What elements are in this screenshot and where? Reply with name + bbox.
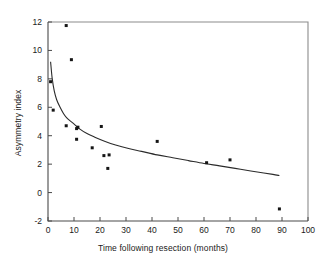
svg-text:70: 70 (225, 225, 235, 235)
svg-text:50: 50 (173, 225, 183, 235)
data-point (205, 161, 208, 164)
svg-text:90: 90 (277, 225, 287, 235)
svg-text:10: 10 (33, 45, 43, 55)
svg-text:-2: -2 (34, 216, 42, 226)
scatter-plot: 0102030405060708090100 -2024681012 (0, 0, 326, 264)
svg-text:4: 4 (37, 131, 42, 141)
data-point (108, 153, 111, 156)
data-point (65, 24, 68, 27)
svg-text:0: 0 (46, 225, 51, 235)
data-point (102, 154, 105, 157)
svg-text:60: 60 (199, 225, 209, 235)
svg-text:10: 10 (69, 225, 79, 235)
svg-text:6: 6 (37, 102, 42, 112)
data-points (49, 24, 281, 210)
fit-curve-path (51, 62, 280, 176)
data-point (278, 207, 281, 210)
data-point (106, 167, 109, 170)
data-point (52, 109, 55, 112)
svg-text:40: 40 (147, 225, 157, 235)
fit-curve (51, 62, 280, 176)
svg-text:2: 2 (37, 159, 42, 169)
data-point (49, 80, 52, 83)
y-axis-ticks: -2024681012 (33, 17, 52, 226)
svg-text:12: 12 (33, 17, 43, 27)
x-axis-title: Time following resection (months) (0, 243, 326, 253)
svg-text:30: 30 (121, 225, 131, 235)
data-point (65, 124, 68, 127)
plot-frame (48, 22, 308, 221)
data-point (75, 138, 78, 141)
x-axis-ticks: 0102030405060708090100 (46, 217, 316, 235)
svg-text:20: 20 (95, 225, 105, 235)
data-point (100, 125, 103, 128)
svg-text:0: 0 (37, 188, 42, 198)
data-point (70, 58, 73, 61)
svg-text:100: 100 (301, 225, 315, 235)
data-point (156, 140, 159, 143)
data-point (229, 158, 232, 161)
figure-container: 0102030405060708090100 -2024681012 Time … (0, 0, 326, 264)
svg-text:8: 8 (37, 74, 42, 84)
data-point (91, 146, 94, 149)
data-point (76, 126, 79, 129)
y-axis-title: Asymmetry index (13, 53, 23, 193)
svg-text:80: 80 (251, 225, 261, 235)
